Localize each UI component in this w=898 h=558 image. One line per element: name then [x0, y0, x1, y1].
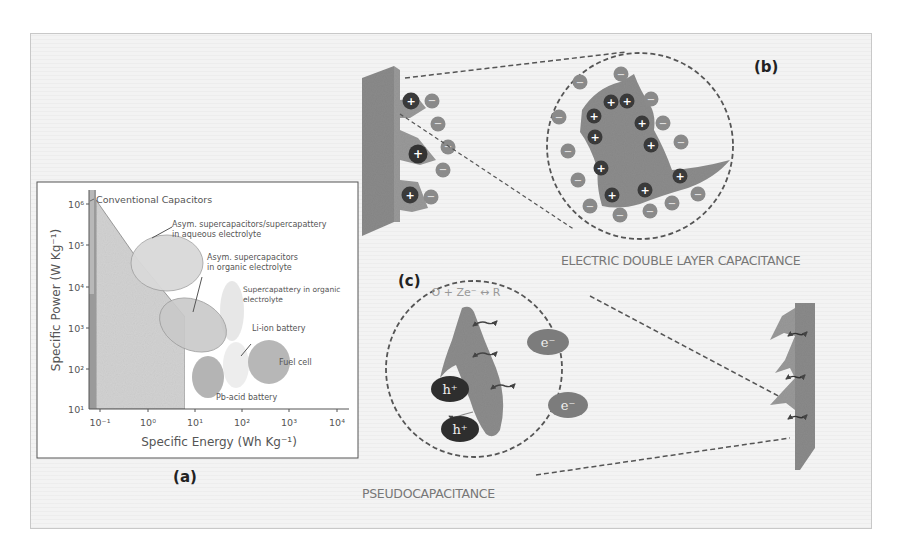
panel-title-pseudo: PSEUDOCAPACITANCE: [362, 486, 495, 501]
hole-ion: h⁺: [441, 416, 479, 442]
svg-text:+: +: [622, 95, 631, 108]
x-tick-label: 10⁴: [329, 417, 345, 428]
negative-ion: −: [425, 94, 440, 109]
y-tick-label: 10⁶: [68, 199, 84, 210]
electrode-right: [770, 303, 815, 470]
x-tick-label: 10²: [234, 417, 250, 428]
svg-text:+: +: [637, 117, 646, 130]
x-axis-label: Specific Energy (Wh Kg⁻¹): [141, 435, 297, 449]
svg-text:−: −: [668, 198, 676, 209]
label-asym-organic: Asym. supercapacitors in organic electro…: [207, 253, 301, 272]
svg-text:−: −: [428, 95, 436, 106]
negative-ion: −: [436, 163, 451, 178]
svg-text:−: −: [659, 118, 667, 129]
y-axis-label: Specific Power (W Kg⁻¹): [49, 229, 63, 371]
svg-text:+: +: [646, 139, 655, 152]
x-tick-label: 10⁰: [140, 417, 156, 428]
svg-text:+: +: [406, 95, 415, 108]
label-li-ion: Li-ion battery: [252, 324, 306, 333]
svg-text:+: +: [596, 162, 605, 175]
label-pb-acid: Pb-acid battery: [216, 393, 277, 402]
region-li-ion: [223, 342, 249, 388]
y-tick-label: 10⁵: [68, 240, 84, 251]
hole-ion: h⁺: [431, 376, 469, 402]
svg-text:−: −: [646, 206, 654, 217]
svg-text:−: −: [434, 118, 442, 129]
svg-text:+: +: [405, 189, 414, 202]
svg-text:h⁺: h⁺: [442, 382, 457, 397]
positive-ion: +: [403, 93, 420, 110]
panel-c-pseudocapacitance: (c) O + Ze⁻ ↔ R e⁻ e⁻ h⁺ h⁺ PSEUDO: [362, 272, 815, 501]
redox-equation: O + Ze⁻ ↔ R: [432, 286, 501, 299]
panel-b-edlc: + − − + − − + − + + + + + + + + + +: [362, 52, 801, 268]
svg-text:−: −: [694, 189, 702, 200]
y-tick-label: 10¹: [68, 404, 84, 415]
positive-ion: +: [402, 187, 419, 204]
region-pb-acid: [192, 356, 224, 398]
panel-label-a: (a): [173, 468, 197, 486]
svg-text:+: +: [675, 170, 684, 183]
negative-ion: −: [431, 117, 446, 132]
region-asym-aqueous: [131, 235, 203, 291]
svg-text:−: −: [586, 201, 594, 212]
svg-text:−: −: [576, 77, 584, 88]
panel-title-edlc: ELECTRIC DOUBLE LAYER CAPACITANCE: [561, 253, 801, 268]
panel-label-b: (b): [754, 58, 778, 76]
svg-text:−: −: [427, 191, 435, 202]
svg-text:+: +: [413, 147, 423, 161]
svg-text:−: −: [555, 112, 563, 123]
x-tick-label: 10¹: [187, 417, 203, 428]
figure-canvas: 10⁶ 10⁵ 10⁴ 10³ 10² 10¹ 10⁻¹ 10⁰ 10¹ 10²…: [0, 0, 898, 558]
y-tick-label: 10³: [68, 323, 84, 334]
electron-ion: e⁻: [548, 392, 588, 418]
svg-text:−: −: [616, 210, 624, 221]
svg-text:−: −: [439, 164, 447, 175]
svg-text:+: +: [606, 96, 615, 109]
svg-text:h⁺: h⁺: [452, 422, 467, 437]
negative-ion: −: [424, 190, 439, 205]
svg-text:−: −: [647, 94, 655, 105]
y-tick-label: 10²: [68, 364, 84, 375]
x-tick-label: 10⁻¹: [90, 417, 111, 428]
zoom-line-top-c: [590, 296, 786, 400]
svg-text:−: −: [564, 146, 572, 157]
electron-ion: e⁻: [527, 329, 569, 355]
svg-text:+: +: [607, 189, 616, 202]
panel-label-c: (c): [398, 272, 421, 290]
y-tick-label: 10⁴: [68, 282, 84, 293]
label-conventional-capacitors: Conventional Capacitors: [96, 194, 212, 205]
ragone-chart: 10⁶ 10⁵ 10⁴ 10³ 10² 10¹ 10⁻¹ 10⁰ 10¹ 10²…: [37, 182, 358, 458]
svg-text:−: −: [574, 175, 582, 186]
svg-text:+: +: [589, 110, 598, 123]
svg-text:e⁻: e⁻: [561, 398, 576, 413]
positive-ion: +: [409, 145, 428, 164]
zoom-line-bottom-c: [536, 438, 790, 475]
label-fuel-cell: Fuel cell: [279, 358, 312, 367]
svg-text:−: −: [677, 137, 685, 148]
svg-text:e⁻: e⁻: [541, 335, 556, 350]
x-tick-label: 10³: [281, 417, 297, 428]
svg-text:+: +: [640, 184, 649, 197]
svg-text:+: +: [590, 131, 599, 144]
svg-text:−: −: [617, 69, 625, 80]
